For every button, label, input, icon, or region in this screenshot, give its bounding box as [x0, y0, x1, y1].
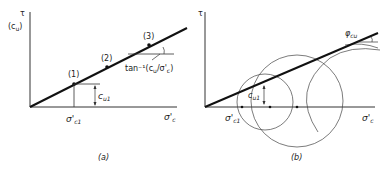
sigma-c1-label: σ'c1	[225, 113, 240, 124]
svg-text:(cu): (cu)	[8, 22, 22, 32]
diagram-canvas: τ (cu) (1) (2) (3) cu1 σ'c1 σ'c tan⁻¹(cu…	[0, 0, 389, 171]
caption-b: (b)	[291, 153, 302, 162]
panel-a: τ (cu) (1) (2) (3) cu1 σ'c1 σ'c tan⁻¹(cu…	[8, 9, 187, 162]
cu1-label: cu1	[248, 91, 260, 101]
x-axis-label: σ'c	[164, 112, 176, 123]
point-3-label: (3)	[143, 32, 154, 41]
y-axis-label: τ	[198, 9, 203, 18]
phi-label: φcu	[345, 29, 358, 39]
tan-label: tan⁻¹(cu/σ'c)	[125, 64, 173, 74]
point-1-label: (1)	[68, 70, 79, 79]
cu1-label: cu1	[98, 91, 111, 102]
point-2-label: (2)	[101, 54, 112, 63]
angle-pointer	[152, 54, 160, 60]
panel-b: τ φcu cu1 σ'c1 σ'c (b)	[198, 9, 380, 162]
failure-envelope	[205, 33, 378, 107]
phi-arc	[371, 37, 372, 42]
sigma-c1-label: σ'c1	[66, 114, 81, 125]
point-3	[147, 43, 151, 47]
angle-arc	[163, 47, 164, 54]
x-axis-label: σ'c	[362, 113, 374, 124]
y-axis-label: τ	[20, 9, 25, 18]
caption-a: (a)	[98, 153, 109, 162]
point-2	[105, 65, 109, 69]
